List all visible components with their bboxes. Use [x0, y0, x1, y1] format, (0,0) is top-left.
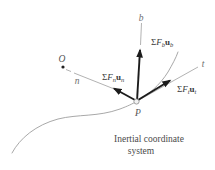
- caption-line-1: Inertial coordinate: [114, 134, 184, 144]
- coordinate-system-diagram: b t n O P ΣFbub ΣFnun ΣFtut Inertial coo…: [0, 0, 215, 170]
- unit-vector-subscript: b: [170, 41, 174, 48]
- n-axis-dash: [66, 70, 71, 72]
- t-axis-label: t: [202, 59, 205, 69]
- force-b-label: ΣFbub: [151, 37, 174, 48]
- unit-vector-subscript: n: [121, 76, 124, 83]
- force-n-vector: [114, 89, 135, 101]
- particle-point: [134, 99, 139, 104]
- force-t-vector: [138, 81, 170, 101]
- force-n-label: ΣFnun: [102, 72, 124, 83]
- origin-point: [61, 65, 64, 68]
- unit-vector-subscript: t: [195, 88, 197, 95]
- n-axis-label: n: [75, 76, 80, 86]
- b-axis-label: b: [139, 13, 144, 23]
- figure-canvas: b t n O P ΣFbub ΣFnun ΣFtut Inertial coo…: [0, 0, 215, 170]
- force-b-vector: [137, 50, 140, 101]
- particle-label: P: [134, 108, 141, 118]
- caption-line-2: system: [128, 146, 155, 156]
- force-t-label: ΣFtut: [177, 84, 197, 95]
- b-axis-line: [141, 23, 142, 45]
- origin-label: O: [59, 54, 66, 64]
